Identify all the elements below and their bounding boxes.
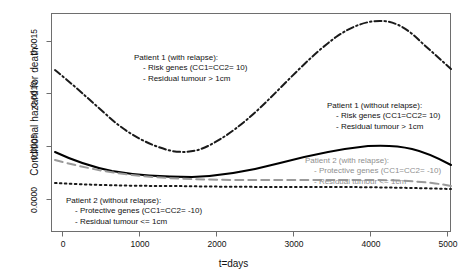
x-tick-label-5000: 5000 [428, 239, 467, 249]
annot-patient1-with-relapse-tumour: - Residual tumour > 1cm [134, 74, 247, 84]
annot-patient2-without-relapse-title: Patient 2 (without relapse): [66, 196, 161, 205]
annot-patient2-with-relapse: Patient 2 (with relapse): - Protective g… [305, 156, 441, 187]
annot-patient1-without-relapse-title: Patient 1 (without relapse): [327, 101, 422, 110]
y-tick-label-0.0010: 0.0010 [29, 74, 39, 114]
y-axis-ticks [47, 42, 52, 200]
annot-patient1-with-relapse: Patient 1 (with relapse): - Risk genes (… [134, 53, 247, 84]
annot-patient1-with-relapse-genes: - Risk genes (CC1=CC2= 10) [134, 63, 247, 73]
annot-patient2-without-relapse-tumour: - Residual tumour <= 1cm [66, 217, 202, 227]
x-tick-label-2000: 2000 [197, 239, 237, 249]
plot-canvas [0, 0, 467, 278]
annot-patient2-with-relapse-genes: - Protective genes (CC1=CC2= -10) [305, 166, 441, 176]
x-tick-label-0: 0 [43, 239, 83, 249]
y-tick-label-0.0000: 0.0000 [29, 180, 39, 220]
annot-patient1-without-relapse-genes: - Risk genes (CC1=CC2= 10) [327, 111, 440, 121]
x-axis-ticks [63, 232, 448, 237]
y-tick-label-0.0015: 0.0015 [29, 22, 39, 62]
series-patient1-with-relapse [55, 21, 451, 152]
hazard-chart: Conditional hazard for death 0.0015 0.00… [0, 0, 467, 278]
annot-patient2-with-relapse-tumour: - Residual tumour <= 1cm [305, 177, 441, 187]
x-axis-title: t=days [0, 258, 467, 269]
annot-patient2-without-relapse: Patient 2 (without relapse): - Protectiv… [66, 196, 202, 227]
x-tick-label-1000: 1000 [120, 239, 160, 249]
x-tick-label-3000: 3000 [274, 239, 314, 249]
x-tick-label-4000: 4000 [351, 239, 391, 249]
annot-patient1-without-relapse: Patient 1 (without relapse): - Risk gene… [327, 101, 440, 132]
annot-patient1-with-relapse-title: Patient 1 (with relapse): [134, 53, 218, 62]
annot-patient2-without-relapse-genes: - Protective genes (CC1=CC2= -10) [66, 206, 202, 216]
annot-patient1-without-relapse-tumour: - Residual tumour > 1cm [327, 122, 440, 132]
annot-patient2-with-relapse-title: Patient 2 (with relapse): [305, 156, 389, 165]
y-tick-label-0.0005: 0.0005 [29, 127, 39, 167]
